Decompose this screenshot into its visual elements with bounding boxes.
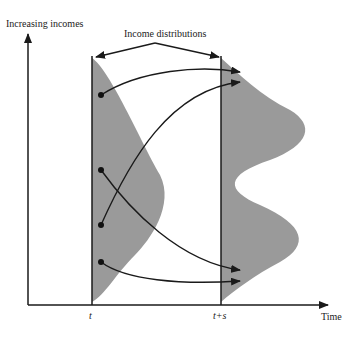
pointer-arrow-left xyxy=(96,43,155,57)
income-point-1 xyxy=(98,92,104,98)
pointer-arrow-right xyxy=(155,43,219,57)
income-distributions-label: Income distributions xyxy=(124,28,207,39)
income-point-3 xyxy=(98,222,104,228)
distribution-t-plus-s xyxy=(221,58,305,302)
y-axis-label: Increasing incomes xyxy=(6,18,83,29)
income-point-2 xyxy=(98,167,104,173)
transition-arrow-1 xyxy=(101,69,240,95)
income-diagram xyxy=(0,0,359,337)
x-axis-label: Time xyxy=(321,311,342,322)
time-mark-t: t xyxy=(89,310,92,321)
time-mark-t-plus-s: t+s xyxy=(213,310,226,321)
income-point-4 xyxy=(98,259,104,265)
